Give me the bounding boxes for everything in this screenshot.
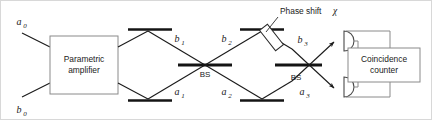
coincidence-counter-label-line2: counter — [370, 65, 398, 75]
svg-text:b: b — [298, 34, 303, 45]
mode-label-b2: b 2 — [222, 33, 233, 47]
phase-shift-label-text: Phase shift — [280, 6, 322, 16]
beam-out-b3-to-detector — [292, 42, 334, 81]
svg-text:3: 3 — [305, 92, 310, 100]
svg-text:3: 3 — [303, 40, 308, 48]
beam-out-a3-to-detector — [292, 49, 334, 88]
phase-shift-symbol-chi: χ — [332, 6, 338, 16]
beam-bs1-to-a2 — [205, 65, 262, 99]
svg-text:a: a — [17, 16, 22, 27]
mode-label-b1: b 1 — [175, 33, 185, 47]
mode-label-a0: a 0 — [17, 16, 28, 30]
beam-input-b0 — [22, 83, 50, 97]
svg-text:a: a — [175, 86, 180, 97]
svg-text:0: 0 — [23, 22, 27, 30]
svg-text:2: 2 — [228, 92, 232, 100]
phase-shift-plate — [260, 24, 284, 51]
mode-label-a2: a 2 — [222, 86, 233, 100]
optics-diagram-svg: Parametric amplifier BS Phase shift — [0, 0, 432, 120]
wire-lower-detector-stub — [354, 82, 358, 87]
beam-amp-out-upper — [118, 31, 148, 47]
coincidence-counter-label-line1: Coincidence — [361, 54, 407, 64]
svg-text:1: 1 — [181, 39, 185, 47]
svg-text:2: 2 — [228, 39, 232, 47]
svg-text:a: a — [300, 86, 305, 97]
svg-text:a: a — [222, 86, 227, 97]
parametric-amplifier-label-line2: amplifier — [68, 65, 100, 75]
wire-upper-detector-stub — [354, 41, 358, 48]
beam-splitter-left-label: BS — [200, 70, 211, 79]
mode-label-a1: a 1 — [175, 86, 185, 100]
optics-diagram-canvas: Parametric amplifier BS Phase shift — [0, 0, 432, 120]
beam-input-a0 — [22, 33, 50, 47]
parametric-amplifier-label-line1: Parametric — [64, 54, 105, 64]
beam-amp-out-lower — [118, 83, 148, 99]
svg-text:b: b — [17, 104, 22, 115]
mode-label-b0: b 0 — [17, 104, 28, 118]
mode-label-a3: a 3 — [300, 86, 311, 100]
mode-label-b3: b 3 — [298, 34, 309, 48]
svg-text:1: 1 — [181, 92, 185, 100]
beam-bs1-to-b2 — [205, 31, 262, 65]
beam-lower-to-bs2 — [262, 81, 292, 99]
svg-text:b: b — [175, 33, 180, 44]
svg-text:b: b — [222, 33, 227, 44]
svg-text:0: 0 — [23, 110, 27, 118]
